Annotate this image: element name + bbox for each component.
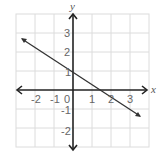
y-tick: 2 bbox=[64, 46, 70, 58]
x-axis-label: x bbox=[150, 83, 156, 95]
y-tick: 1 bbox=[65, 66, 71, 78]
y-tick: -2 bbox=[61, 125, 71, 137]
y-tick: 3 bbox=[64, 27, 70, 39]
x-tick: -2 bbox=[31, 93, 41, 105]
coordinate-plane: y x -2 -1 0 1 2 3 3 2 1 -1 -2 bbox=[0, 0, 161, 156]
x-tick: 3 bbox=[127, 93, 133, 105]
y-axis-label: y bbox=[69, 0, 75, 12]
x-tick: -1 bbox=[50, 93, 60, 105]
x-tick: 1 bbox=[89, 93, 95, 105]
y-tick: -1 bbox=[61, 104, 71, 116]
grid bbox=[16, 14, 149, 147]
x-tick: 2 bbox=[108, 93, 114, 105]
